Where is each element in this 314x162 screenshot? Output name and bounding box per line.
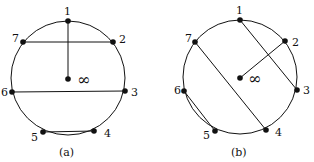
node-infinity xyxy=(65,76,71,82)
node-label-2: 2 xyxy=(292,36,299,49)
node-label-7: 7 xyxy=(185,32,192,45)
node-label-4: 4 xyxy=(275,126,282,139)
node-7 xyxy=(192,39,198,45)
node-6 xyxy=(9,89,15,95)
infinity-label: ∞ xyxy=(248,69,261,88)
node-infinity xyxy=(237,75,243,81)
node-2 xyxy=(282,38,288,44)
node-label-6: 6 xyxy=(174,84,181,97)
node-label-6: 6 xyxy=(1,86,8,99)
node-2 xyxy=(110,39,116,45)
node-1 xyxy=(237,17,243,23)
node-5 xyxy=(40,129,46,135)
node-4 xyxy=(263,127,269,133)
node-label-3: 3 xyxy=(303,84,310,97)
edge-6-5 xyxy=(184,91,215,131)
caption-a: (a) xyxy=(59,146,74,159)
caption-b: (b) xyxy=(231,146,247,159)
diagram-a: 1 2 3 4 5 6 7 ∞ (a) xyxy=(1,5,138,159)
infinity-label: ∞ xyxy=(77,70,90,89)
node-6 xyxy=(181,88,187,94)
edge-2-infinity xyxy=(240,41,285,78)
node-label-4: 4 xyxy=(104,127,111,140)
node-1 xyxy=(65,18,71,24)
node-label-1: 1 xyxy=(236,4,243,17)
node-3 xyxy=(122,88,128,94)
node-4 xyxy=(91,128,97,134)
node-label-5: 5 xyxy=(203,129,210,142)
node-label-2: 2 xyxy=(119,33,126,46)
node-3 xyxy=(294,87,300,93)
edge-6-3 xyxy=(12,91,125,92)
diagram-b: 1 2 3 4 5 6 7 ∞ (b) xyxy=(174,4,310,159)
node-label-1: 1 xyxy=(64,5,71,18)
node-label-5: 5 xyxy=(31,131,38,144)
node-label-7: 7 xyxy=(12,32,19,45)
node-5 xyxy=(212,128,218,134)
node-label-3: 3 xyxy=(131,86,138,99)
node-7 xyxy=(20,39,26,45)
